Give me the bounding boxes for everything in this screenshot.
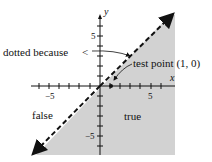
x-axis-label: x	[169, 72, 175, 83]
test-point-label: test point (1, 0)	[133, 57, 201, 70]
dotted-pointer-arrow	[92, 51, 130, 56]
y-tick-pos5: 5	[91, 31, 96, 41]
test-point	[109, 84, 113, 88]
less-than-symbol: <	[82, 46, 88, 58]
false-region-label: false	[32, 109, 53, 121]
true-region-label: true	[124, 110, 141, 122]
y-axis-label: y	[103, 6, 109, 17]
x-tick-pos5: 5	[148, 91, 153, 101]
dotted-because-label: dotted because	[3, 46, 68, 58]
x-tick-neg5: −5	[45, 91, 55, 101]
y-axis-arrow-icon	[98, 14, 102, 19]
inequality-graph: y x −5 5 5 −5 dotted because < test poin…	[0, 0, 212, 162]
y-tick-neg5: −5	[85, 131, 95, 141]
shaded-region	[36, 15, 175, 155]
